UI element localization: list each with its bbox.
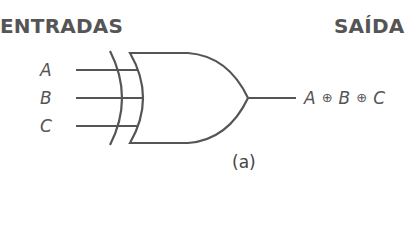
output-term-a: A	[304, 88, 316, 108]
output-term-b: B	[339, 88, 351, 108]
figure-caption: (a)	[232, 152, 256, 172]
output-expression: A⊕B⊕C	[304, 88, 385, 108]
output-term-c: C	[373, 88, 385, 108]
or-gate-body	[130, 53, 248, 143]
xor-operator-icon: ⊕	[322, 90, 333, 105]
xor-operator-icon: ⊕	[356, 90, 367, 105]
